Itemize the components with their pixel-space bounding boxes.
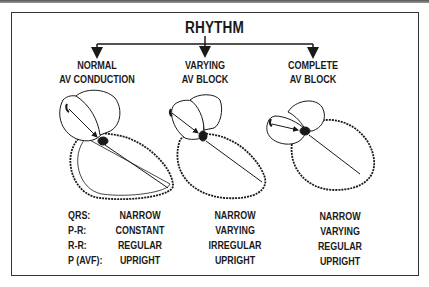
value-varying-rr: IRREGULAR [205,239,265,251]
value-complete-rr: REGULAR [310,240,370,252]
value-varying-p-avf: UPRIGHT [205,254,265,266]
value-complete-pr: VARYING [310,225,370,237]
heart-complete-av-block-illustration [267,101,374,190]
heading-line: AV CONDUCTION [56,72,138,86]
column-heading-complete-av-block: COMPLETE AV BLOCK [276,58,350,86]
heading-line: NORMAL [56,58,138,72]
value-complete-qrs: NARROW [310,210,370,222]
heading-line: AV BLOCK [168,72,242,86]
row-label-pr: P-R: [68,224,86,236]
value-varying-qrs: NARROW [205,209,265,221]
row-label-p-avf: P (AVF): [68,254,102,266]
heading-line: COMPLETE [276,58,350,72]
heading-line: AV BLOCK [276,72,350,86]
column-heading-varying-av-block: VARYING AV BLOCK [168,58,242,86]
value-complete-p-avf: UPRIGHT [310,255,370,267]
heart-normal-conduction-illustration [60,90,173,199]
value-normal-pr: CONSTANT [110,224,170,236]
value-normal-qrs: NARROW [110,209,170,221]
value-normal-p-avf: UPRIGHT [110,254,170,266]
connector-tree [97,36,313,56]
value-varying-pr: VARYING [205,224,265,236]
column-heading-normal-av-conduction: NORMAL AV CONDUCTION [56,58,138,86]
value-normal-rr: REGULAR [110,239,170,251]
row-label-qrs: QRS: [68,209,90,221]
row-label-rr: R-R: [68,239,87,251]
heart-varying-av-block-illustration [170,95,265,199]
heading-line: VARYING [168,58,242,72]
